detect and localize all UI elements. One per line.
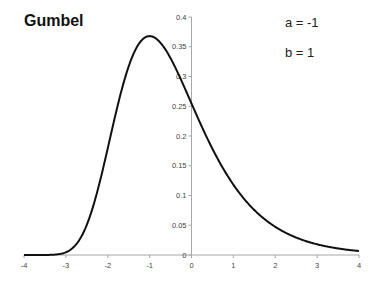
y-tick-label: 0.2 xyxy=(176,132,186,141)
y-tick-label: 0.15 xyxy=(172,161,187,170)
chart-canvas: -4-3-2-10123400.050.10.150.20.250.30.350… xyxy=(0,0,381,288)
x-tick-label: -4 xyxy=(21,261,28,270)
x-tick-label: -3 xyxy=(63,261,70,270)
x-tick-label: 2 xyxy=(273,261,277,270)
y-tick-label: 0.25 xyxy=(172,102,187,111)
x-tick-label: -2 xyxy=(104,261,111,270)
x-tick-label: -1 xyxy=(146,261,153,270)
x-tick-label: 3 xyxy=(315,261,319,270)
x-tick-label: 1 xyxy=(231,261,235,270)
y-tick-label: 0.1 xyxy=(176,191,186,200)
x-tick-label: 0 xyxy=(189,261,193,270)
y-tick-label: 0.35 xyxy=(172,42,187,51)
x-tick-label: 4 xyxy=(357,261,361,270)
y-tick-label: 0.05 xyxy=(172,221,187,230)
y-tick-label: 0.4 xyxy=(176,13,186,22)
y-tick-label: 0 xyxy=(182,251,186,260)
